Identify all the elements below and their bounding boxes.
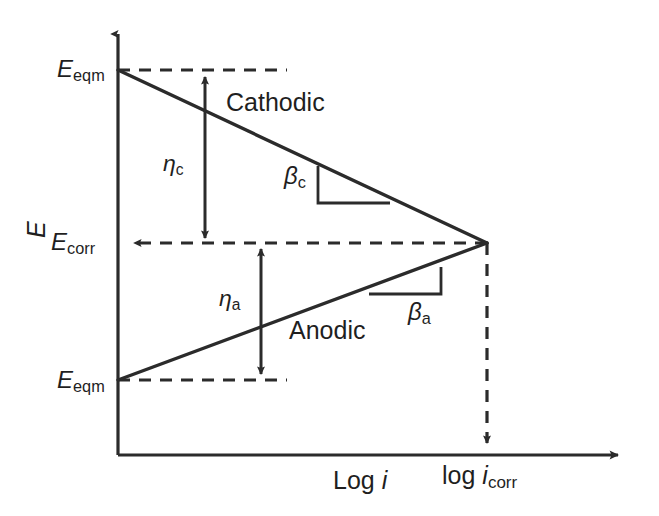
icorr-subscript: corr (488, 473, 517, 492)
anodic-curve-label: Anodic (289, 318, 365, 343)
beta-a-slope-triangle (369, 267, 441, 294)
x-axis-title-variable: i (382, 466, 388, 494)
eta-a-symbol: η (219, 285, 232, 311)
eeqm-anodic-subscript: eqm (73, 377, 105, 395)
eeqm-cathodic-symbol: E (57, 55, 73, 82)
eta-c-label: ηc (163, 152, 184, 175)
beta-c-slope-triangle (318, 166, 390, 203)
slope-triangles (318, 166, 441, 294)
beta-c-label: βc (284, 164, 306, 188)
eta-a-subscript: a (232, 296, 241, 313)
reference-lines (118, 70, 487, 443)
beta-a-label: βa (408, 300, 431, 324)
eta-c-symbol: η (163, 150, 176, 176)
beta-a-symbol: β (408, 298, 422, 325)
beta-c-subscript: c (298, 173, 306, 191)
anodic-polarisation-line (118, 243, 487, 380)
beta-a-subscript: a (422, 309, 431, 327)
eeqm-cathodic-label: Eeqm (57, 57, 105, 81)
y-axis-title: E (24, 221, 49, 238)
x-axis-title-prefix: Log (333, 466, 375, 494)
icorr-tick-label: log icorr (442, 463, 517, 488)
icorr-prefix: log (442, 461, 475, 489)
ecorr-label: Ecorr (51, 230, 95, 254)
cathodic-curve-label: Cathodic (226, 90, 325, 115)
eta-c-subscript: c (176, 161, 184, 178)
x-axis-title: Log i (333, 468, 387, 493)
eeqm-anodic-symbol: E (57, 366, 73, 393)
ecorr-subscript: corr (67, 239, 95, 257)
eta-a-label: ηa (219, 287, 240, 310)
eeqm-anodic-label: Eeqm (57, 368, 105, 392)
eeqm-cathodic-subscript: eqm (73, 66, 105, 84)
ecorr-symbol: E (51, 228, 67, 255)
evans-diagram-figure: E Eeqm Ecorr Eeqm Cathodic Anodic ηc ηa … (0, 0, 659, 516)
beta-c-symbol: β (284, 162, 298, 189)
